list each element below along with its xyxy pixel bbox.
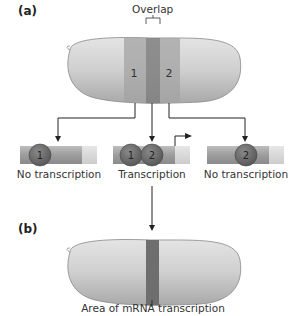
protein-label: 1 bbox=[128, 150, 134, 161]
mrna-area-caption: Area of mRNA transcription bbox=[72, 302, 234, 314]
band-1-label: 1 bbox=[131, 67, 138, 80]
arrow-to-b bbox=[149, 186, 155, 231]
mrna-band bbox=[146, 230, 159, 310]
promoter-1-caption: No transcription bbox=[12, 168, 106, 180]
promoter-construct-1: 1 bbox=[20, 144, 97, 166]
promoter-3-caption: No transcription bbox=[199, 168, 293, 180]
promoter-2-caption: Transcription bbox=[105, 168, 199, 180]
overlap-bracket bbox=[146, 15, 160, 24]
embryo-b bbox=[67, 230, 241, 310]
overlap-band bbox=[146, 30, 160, 110]
diagram-canvas: 1 1 2 2 1 2 bbox=[0, 0, 303, 316]
promoter-construct-3: 2 bbox=[207, 144, 284, 166]
protein-label: 1 bbox=[37, 150, 43, 161]
band-2-label: 2 bbox=[166, 67, 173, 80]
embryo-a bbox=[67, 30, 241, 110]
protein-label: 2 bbox=[243, 150, 249, 161]
transcription-start-arrow bbox=[175, 136, 186, 146]
arrows-a bbox=[58, 103, 245, 137]
protein-label: 2 bbox=[149, 150, 155, 161]
arrowheads-a bbox=[55, 136, 248, 142]
